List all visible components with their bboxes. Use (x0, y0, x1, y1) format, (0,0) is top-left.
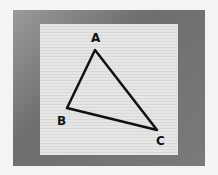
triangle-abc (67, 50, 157, 130)
vertex-label-c: C (156, 134, 165, 148)
triangle-drawing: A B C (0, 0, 218, 175)
vertex-label-b: B (57, 114, 66, 128)
vertex-label-a: A (91, 31, 101, 45)
